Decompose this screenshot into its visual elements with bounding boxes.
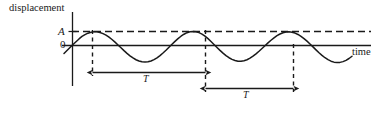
figure-canvas: [0, 0, 384, 118]
x-axis-label: time: [352, 47, 371, 58]
period-1-label: T: [143, 74, 149, 84]
y-axis-tick-label-amplitude: A: [58, 26, 65, 37]
y-axis-tick-label-origin: 0: [60, 39, 66, 50]
shm-displacement-time-figure: displacement time A 0 T T: [0, 0, 384, 118]
y-axis-label: displacement: [9, 3, 64, 14]
displacement-curve: [64, 31, 352, 62]
period-2-label: T: [243, 90, 249, 100]
